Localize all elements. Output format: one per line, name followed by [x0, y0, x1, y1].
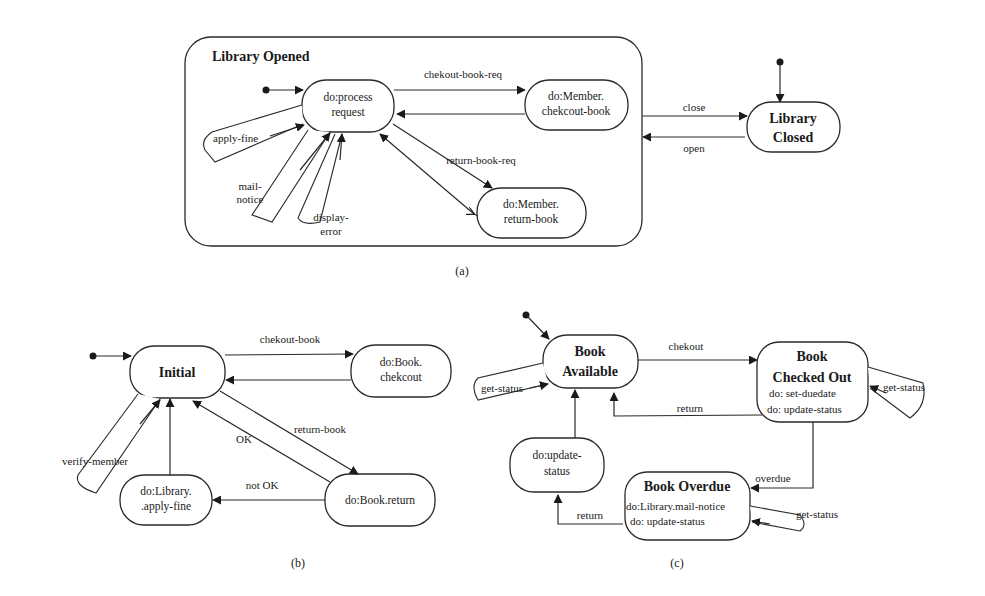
initial-pseudostate-closed-icon — [777, 59, 784, 66]
transition-return-available-label: return — [677, 402, 704, 414]
diagram-b: Initial do:Book. chekcout chekout-book d… — [62, 333, 451, 570]
transition-close-label: close — [683, 101, 706, 113]
state-member-return-line1: do:Member. — [503, 198, 559, 210]
state-apply-fine-line1: do:Library. — [140, 485, 191, 498]
transition-overdue-label: overdue — [755, 472, 791, 484]
state-checked-out-line2: Checked Out — [773, 370, 852, 385]
loop-display-error-line2: error — [320, 225, 342, 237]
state-member-checkout-line1: do:Member. — [548, 90, 604, 102]
transition-ok-label: OK — [236, 433, 252, 445]
loop-mail-notice-line2: notice — [237, 193, 264, 205]
initial-pseudostate-icon — [263, 87, 270, 94]
loop-get-status-overdue-label: get-status — [796, 508, 838, 520]
state-book-available — [543, 335, 638, 388]
state-book-checkout-line1: do:Book. — [380, 356, 423, 368]
state-book-checkout-line2: chekcout — [380, 371, 422, 383]
loop-verify-member-label: verify-member — [62, 455, 128, 467]
transition-return-book-label: return-book — [294, 423, 346, 435]
diagram-c: Book Available Book Checked Out do: set-… — [474, 312, 925, 571]
initial-c-arrow — [528, 317, 549, 339]
caption-a: (a) — [455, 264, 468, 278]
state-apply-fine-line2: .apply-fine — [141, 500, 191, 513]
transition-open-label: open — [683, 142, 705, 154]
state-process-request-line2: request — [331, 106, 365, 119]
transition-checkout-c-label: chekout — [669, 340, 704, 352]
state-overdue-action2: do: update-status — [630, 515, 705, 527]
transition-return-overdue-label: return — [577, 509, 604, 521]
state-overdue-title: Book Overdue — [644, 479, 731, 494]
transition-checkout-book-label: chekout-book — [260, 333, 321, 345]
transition-checkout-req-label: chekout-book-req — [424, 68, 503, 80]
transition-checkout-book-arrow — [225, 354, 353, 355]
state-library-opened-title: Library Opened — [212, 49, 310, 64]
state-overdue-action1: do:Library.mail-notice — [626, 500, 725, 512]
state-initial-label: Initial — [159, 365, 196, 380]
loop-get-status-available-label: get-status — [481, 382, 523, 394]
state-book-available-line2: Available — [562, 364, 618, 379]
loop-apply-fine-label: apply-fine — [213, 132, 258, 144]
loop-get-status-checked-out-label: get-status — [883, 381, 925, 393]
state-checked-out-line1: Book — [796, 349, 827, 364]
state-checked-out-action2: do: update-status — [767, 403, 842, 415]
state-update-status-line1: do:update- — [532, 449, 581, 462]
state-update-status-line2: status — [544, 465, 571, 477]
state-checked-out-action1: do: set-duedate — [769, 387, 836, 399]
transition-ok-arrow — [193, 401, 330, 482]
transition-return-req-label: return-book-req — [446, 154, 516, 166]
caption-c: (c) — [670, 556, 683, 570]
state-book-return-label: do:Book.return — [345, 494, 415, 506]
state-process-request-line1: do:process — [323, 91, 373, 104]
state-diagram-figure: Library Opened do:process request do:Mem… — [0, 0, 985, 596]
loop-mail-notice-line1: mail- — [238, 180, 262, 192]
state-member-checkout-line2: chekcout-book — [542, 105, 611, 117]
loop-display-error-line1: display- — [313, 211, 349, 223]
state-library-closed-line1: Library — [769, 111, 816, 126]
caption-b: (b) — [291, 556, 305, 570]
state-library-closed-line2: Closed — [773, 130, 814, 145]
initial-pseudostate-b-icon — [90, 353, 97, 360]
transition-not-ok-label: not OK — [246, 479, 279, 491]
state-member-return-line2: return-book — [504, 213, 559, 225]
diagram-a: Library Opened do:process request do:Mem… — [185, 37, 840, 278]
state-book-available-line1: Book — [574, 344, 605, 359]
